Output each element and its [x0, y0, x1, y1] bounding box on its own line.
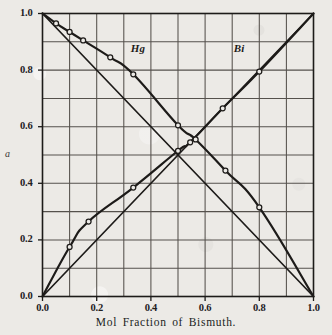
- y-tick-label: 0.6: [7, 120, 33, 131]
- y-tick-label: 1.0: [7, 7, 33, 18]
- series-label-bi: Bi: [234, 42, 245, 54]
- data-point-marker: [188, 140, 193, 145]
- data-point-marker: [67, 29, 72, 34]
- series-label-hg: Hg: [131, 42, 146, 54]
- data-point-marker: [176, 148, 181, 153]
- x-tick-label: 0.4: [136, 302, 166, 313]
- y-tick-label: 0.4: [7, 177, 33, 188]
- data-point-marker: [131, 72, 136, 77]
- x-axis-title: Mol Fraction of Bismuth.: [0, 316, 332, 328]
- plot-canvas: [0, 0, 332, 335]
- x-tick-label: 0.2: [82, 302, 112, 313]
- data-point-marker: [108, 55, 113, 60]
- x-tick-label: 0.8: [244, 302, 274, 313]
- data-point-marker: [223, 168, 228, 173]
- data-point-marker: [257, 205, 262, 210]
- data-point-marker: [54, 21, 59, 26]
- y-tick-label: 0.0: [7, 290, 33, 301]
- data-point-markers: [54, 21, 262, 250]
- data-point-marker: [257, 69, 262, 74]
- data-point-marker: [67, 244, 72, 249]
- x-tick-label: 1.0: [299, 302, 329, 313]
- x-tick-label: 0.6: [190, 302, 220, 313]
- data-point-marker: [220, 106, 225, 111]
- data-point-marker: [81, 38, 86, 43]
- y-tick-label: 0.2: [7, 233, 33, 244]
- data-point-marker: [193, 137, 198, 142]
- data-point-marker: [176, 123, 181, 128]
- data-point-marker: [131, 185, 136, 190]
- y-tick-label: 0.8: [7, 64, 33, 75]
- x-tick-label: 0.0: [28, 302, 58, 313]
- y-axis-title: a: [5, 148, 10, 159]
- chart-figure: 0.00.20.40.60.81.0 0.00.20.40.60.81.0 a …: [0, 0, 332, 335]
- data-point-marker: [86, 219, 91, 224]
